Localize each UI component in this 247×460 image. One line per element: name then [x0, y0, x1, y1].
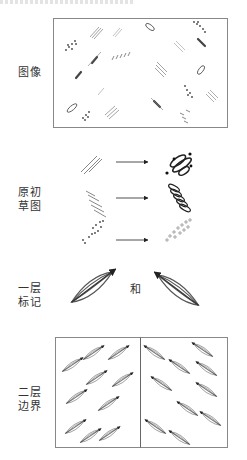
- image-panel: [54, 19, 228, 128]
- figure-diagram: [0, 0, 247, 460]
- primal-sketch-panel: [81, 152, 193, 244]
- second-order-boundary-panel: [56, 338, 228, 448]
- first-order-tokens-panel: [72, 269, 199, 305]
